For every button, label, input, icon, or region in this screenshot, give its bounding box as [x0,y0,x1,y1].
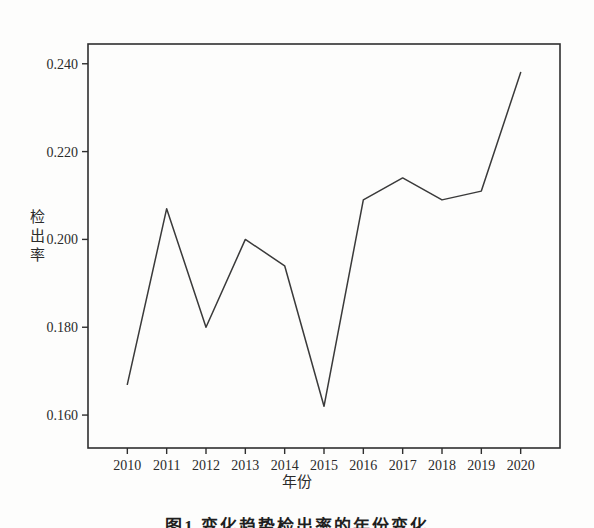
y-axis-tick-label: 0.240 [47,57,79,72]
figure-caption: 图1 变化趋势检出率的年份变化 [0,512,594,528]
y-axis-tick-label: 0.180 [47,320,79,335]
figure-root: 0.2400.2200.2000.1800.160 20102011201220… [0,0,594,528]
y-axis-tick-label: 0.220 [47,145,79,160]
y-axis-tick-label: 0.160 [47,408,79,423]
y-axis-tick-label: 0.200 [47,232,79,247]
line-chart: 0.2400.2200.2000.1800.160 20102011201220… [0,0,594,500]
y-axis-title: 检 出 率 [26,208,48,265]
y-axis-title-char-1: 检 [26,208,48,227]
y-axis-title-char-2: 出 [26,227,48,246]
x-axis-title: 年份 [0,470,594,491]
chart-canvas: 0.2400.2200.2000.1800.160 20102011201220… [0,0,594,500]
y-axis-title-char-3: 率 [26,246,48,265]
chart-background [0,0,594,500]
